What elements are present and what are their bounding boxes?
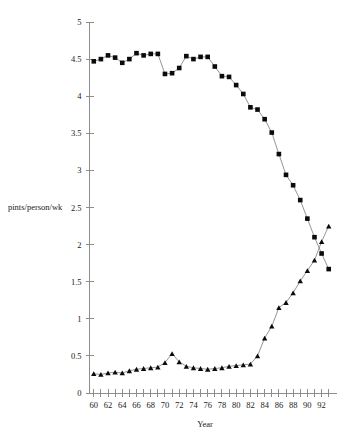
series-line (94, 53, 329, 269)
chart-container: 00.511.522.533.544.55 606264666870727476… (0, 0, 343, 438)
data-point-triangle (305, 268, 310, 273)
x-tick-label: 92 (317, 400, 326, 410)
x-tick-label: 82 (246, 400, 255, 410)
y-tick-label: 4.5 (71, 54, 82, 64)
data-point-square (241, 92, 246, 97)
data-point-square (291, 183, 296, 188)
x-tick-label: 88 (289, 400, 298, 410)
series-triangle (91, 224, 331, 377)
data-point-square (255, 107, 260, 112)
x-tick-label: 80 (232, 400, 241, 410)
data-point-square (163, 72, 168, 77)
line-chart: 00.511.522.533.544.55 606264666870727476… (0, 0, 343, 438)
data-point-triangle (312, 258, 317, 263)
data-point-square (326, 267, 331, 272)
data-point-square (319, 251, 324, 256)
data-point-square (234, 83, 239, 88)
x-axis-ticks: 6062646668707274767880828486889092 (90, 389, 329, 410)
x-tick-label: 60 (90, 400, 99, 410)
x-tick-label: 74 (189, 400, 198, 410)
data-point-square (248, 105, 253, 110)
x-tick-label: 78 (218, 400, 227, 410)
x-tick-label: 62 (104, 400, 113, 410)
data-point-square (134, 51, 139, 56)
x-tick-label: 64 (118, 400, 127, 410)
x-tick-label: 72 (175, 400, 184, 410)
data-point-square (120, 61, 125, 66)
data-point-square (269, 130, 274, 135)
data-point-triangle (290, 290, 295, 295)
data-point-square (113, 55, 118, 60)
data-point-triangle (319, 239, 324, 244)
data-point-square (198, 55, 203, 60)
data-point-square (213, 64, 218, 69)
data-point-square (170, 71, 175, 76)
x-tick-label: 90 (303, 400, 312, 410)
x-axis-title: Year (197, 419, 213, 429)
data-point-triangle (326, 224, 331, 229)
x-tick-label: 84 (260, 400, 269, 410)
y-tick-label: 1.5 (71, 277, 82, 287)
data-point-square (184, 54, 189, 59)
data-series-layer (91, 51, 331, 377)
x-tick-label: 68 (146, 400, 155, 410)
y-tick-label: 2 (77, 240, 81, 250)
y-tick-label: 3.5 (71, 128, 82, 138)
data-point-triangle (169, 351, 174, 356)
data-point-square (91, 59, 96, 64)
y-tick-label: 0 (77, 388, 81, 398)
data-point-square (127, 57, 132, 62)
data-point-square (277, 152, 282, 157)
x-tick-label: 86 (275, 400, 284, 410)
y-axis: 00.511.522.533.544.55 (71, 17, 94, 398)
data-point-square (227, 75, 232, 80)
data-point-triangle (262, 336, 267, 341)
x-tick-label: 76 (203, 400, 212, 410)
y-tick-label: 0.5 (71, 351, 82, 361)
data-point-square (141, 53, 146, 58)
y-tick-label: 4 (77, 91, 82, 101)
y-tick-label: 1 (77, 314, 81, 324)
series-line (94, 226, 329, 374)
x-axis: 6062646668707274767880828486889092 (90, 389, 338, 410)
x-tick-label: 70 (161, 400, 170, 410)
y-tick-label: 3 (77, 165, 81, 175)
y-tick-label: 2.5 (71, 203, 82, 213)
y-tick-label: 5 (77, 17, 81, 27)
data-point-triangle (298, 279, 303, 284)
data-point-square (220, 74, 225, 79)
data-point-square (205, 55, 210, 60)
data-point-square (312, 235, 317, 240)
data-point-triangle (283, 300, 288, 305)
data-point-triangle (162, 360, 167, 365)
data-point-triangle (269, 324, 274, 329)
data-point-square (156, 52, 161, 57)
data-point-square (99, 57, 104, 62)
data-point-square (148, 52, 153, 57)
data-point-square (177, 66, 182, 71)
data-point-square (284, 173, 289, 178)
y-axis-title: pints/person/wk (8, 202, 63, 212)
data-point-square (298, 198, 303, 203)
data-point-square (305, 216, 310, 221)
series-square (91, 51, 331, 272)
x-tick-label: 66 (132, 400, 141, 410)
data-point-square (106, 53, 111, 58)
data-point-square (262, 117, 267, 122)
data-point-square (191, 57, 196, 62)
data-point-triangle (255, 354, 260, 359)
y-axis-ticks: 00.511.522.533.544.55 (71, 17, 94, 398)
